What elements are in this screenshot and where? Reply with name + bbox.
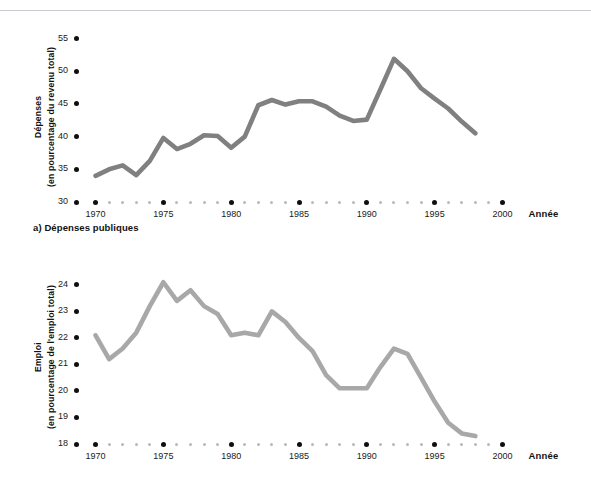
x-tick-dot-minor (216, 443, 219, 446)
depenses-line-series (0, 14, 591, 219)
x-tick-dot-minor (406, 443, 409, 446)
y-tick-label: 21 (52, 358, 68, 368)
x-tick-dot-minor (420, 443, 423, 446)
x-tick-dot-minor (284, 201, 287, 204)
emploi-line-series (0, 248, 591, 470)
x-axis-title: Année (528, 208, 558, 219)
figure-container: Dépenses (en pourcentage du revenu total… (0, 0, 591, 484)
y-tick-label: 30 (52, 196, 68, 206)
y-tick-dot (74, 69, 79, 74)
x-tick-dot-major (364, 200, 369, 205)
y-tick-dot (74, 200, 79, 205)
chart-panel-emploi: Emploi (en pourcentage de l'emploi total… (0, 248, 591, 470)
x-tick-label: 1975 (148, 209, 178, 219)
x-tick-dot-minor (325, 443, 328, 446)
x-tick-dot-major (161, 200, 166, 205)
y-tick-label: 23 (52, 305, 68, 315)
x-tick-dot-minor (135, 201, 138, 204)
y-tick-label: 19 (52, 411, 68, 421)
x-tick-dot-major (364, 442, 369, 447)
x-tick-dot-minor (108, 443, 111, 446)
x-tick-dot-minor (406, 201, 409, 204)
x-tick-dot-minor (325, 201, 328, 204)
y-tick-label: 20 (52, 385, 68, 395)
x-tick-dot-minor (243, 201, 246, 204)
x-tick-dot-minor (447, 201, 450, 204)
series-polyline (96, 282, 476, 436)
x-tick-dot-minor (338, 443, 341, 446)
x-tick-dot-major (297, 442, 302, 447)
x-tick-label: 1970 (81, 209, 111, 219)
x-tick-dot-major (432, 200, 437, 205)
y-tick-label: 18 (52, 438, 68, 448)
y-tick-dot (74, 362, 79, 367)
x-tick-dot-minor (311, 443, 314, 446)
y-tick-label: 35 (52, 163, 68, 173)
x-tick-dot-minor (243, 443, 246, 446)
x-tick-label: 1990 (352, 209, 382, 219)
x-tick-dot-minor (379, 443, 382, 446)
x-tick-dot-minor (474, 201, 477, 204)
x-tick-label: 1980 (216, 209, 246, 219)
x-tick-dot-minor (121, 443, 124, 446)
x-tick-dot-minor (189, 201, 192, 204)
x-tick-label: 1970 (81, 451, 111, 461)
chart-panel-depenses: Dépenses (en pourcentage du revenu total… (0, 14, 591, 219)
x-tick-dot-major (229, 442, 234, 447)
x-tick-label: 1995 (420, 209, 450, 219)
x-tick-dot-minor (203, 201, 206, 204)
x-tick-dot-minor (352, 443, 355, 446)
panel-a-caption: a) Dépenses publiques (33, 222, 139, 233)
x-tick-dot-major (297, 200, 302, 205)
y-tick-label: 55 (52, 33, 68, 43)
x-tick-dot-minor (379, 201, 382, 204)
x-tick-dot-minor (108, 201, 111, 204)
top-divider-rule (0, 10, 591, 11)
y-tick-label: 50 (52, 65, 68, 75)
x-tick-dot-minor (447, 443, 450, 446)
x-tick-dot-major (229, 200, 234, 205)
x-tick-dot-minor (460, 443, 463, 446)
x-tick-dot-minor (216, 201, 219, 204)
x-tick-dot-minor (203, 443, 206, 446)
x-tick-dot-minor (121, 201, 124, 204)
x-tick-label: 2000 (487, 209, 517, 219)
x-tick-dot-minor (257, 443, 260, 446)
x-axis-title: Année (528, 450, 558, 461)
x-tick-dot-minor (148, 201, 151, 204)
x-tick-dot-minor (148, 443, 151, 446)
x-tick-dot-major (93, 200, 98, 205)
x-tick-dot-major (500, 442, 505, 447)
x-tick-dot-minor (311, 201, 314, 204)
x-tick-dot-minor (352, 201, 355, 204)
series-polyline (96, 59, 476, 176)
x-tick-label: 1985 (284, 451, 314, 461)
y-tick-dot (74, 167, 79, 172)
y-tick-label: 45 (52, 98, 68, 108)
x-tick-dot-major (500, 200, 505, 205)
x-tick-dot-minor (189, 443, 192, 446)
x-tick-dot-major (432, 442, 437, 447)
x-tick-label: 1975 (148, 451, 178, 461)
x-tick-dot-minor (338, 201, 341, 204)
x-tick-dot-minor (135, 443, 138, 446)
y-tick-dot (74, 442, 79, 447)
x-tick-dot-minor (420, 201, 423, 204)
x-tick-dot-minor (474, 443, 477, 446)
x-tick-dot-major (93, 442, 98, 447)
x-tick-label: 2000 (487, 451, 517, 461)
y-tick-label: 24 (52, 279, 68, 289)
x-tick-dot-minor (257, 201, 260, 204)
y-tick-dot (74, 309, 79, 314)
x-tick-dot-minor (460, 201, 463, 204)
y-tick-dot (74, 36, 79, 41)
y-tick-label: 40 (52, 131, 68, 141)
x-tick-label: 1995 (420, 451, 450, 461)
y-tick-dot (74, 415, 79, 420)
x-tick-dot-minor (284, 443, 287, 446)
y-tick-label: 22 (52, 332, 68, 342)
x-tick-dot-major (161, 442, 166, 447)
x-tick-label: 1990 (352, 451, 382, 461)
x-tick-label: 1980 (216, 451, 246, 461)
x-tick-label: 1985 (284, 209, 314, 219)
